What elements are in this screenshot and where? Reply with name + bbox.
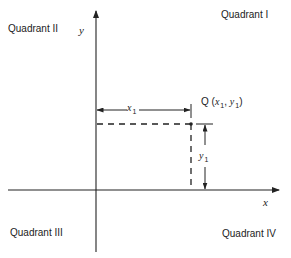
point-y-var: y: [230, 96, 234, 107]
point-q: [189, 122, 193, 126]
quadrant-iv-label: Quadrant IV: [222, 229, 276, 239]
y1-dimension-label: y1: [199, 151, 208, 161]
point-close-paren: ): [239, 96, 242, 107]
x1-sub: 1: [132, 108, 136, 115]
diagram-graphics: [0, 0, 291, 258]
y1-var: y: [199, 150, 203, 161]
y-axis-label: y: [79, 25, 84, 36]
point-name: Q: [201, 96, 209, 107]
coordinate-plane-diagram: Quadrant II Quadrant I Quadrant III Quad…: [0, 0, 291, 258]
x1-var: x: [127, 102, 131, 113]
point-x-var: x: [215, 96, 219, 107]
quadrant-ii-label: Quadrant II: [8, 24, 58, 34]
quadrant-i-label: Quadrant I: [221, 10, 268, 20]
point-x-sub: 1: [220, 102, 224, 109]
y1-sub: 1: [204, 156, 208, 163]
quadrant-iii-label: Quadrant III: [10, 228, 63, 238]
x-axis-label: x: [263, 197, 268, 208]
point-q-label: Q (x1, y1): [201, 97, 243, 107]
x1-dimension-label: x1: [127, 103, 136, 113]
point-y-sub: 1: [235, 102, 239, 109]
